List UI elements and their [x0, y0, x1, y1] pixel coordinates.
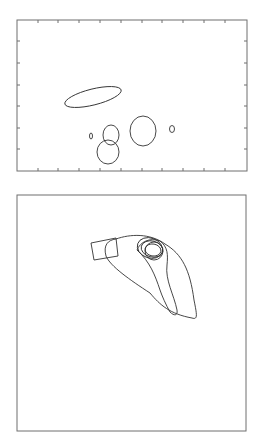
top-panel-ticks — [17, 20, 247, 171]
contour-small-rectangle — [91, 238, 118, 260]
contour-tiny-loop-left — [90, 133, 93, 139]
top-panel-contours — [63, 82, 175, 164]
contour-elongated-ellipse — [63, 82, 123, 112]
top-panel-frame — [17, 20, 247, 171]
contour-middle-blob — [130, 116, 156, 146]
contour-upper-circle — [103, 125, 119, 145]
figure-canvas — [0, 0, 260, 447]
contour-lower-blob — [97, 140, 119, 164]
bottom-panel-frame — [17, 195, 246, 431]
contour-figure — [0, 0, 260, 447]
contour-core-loop-3 — [134, 234, 165, 262]
bottom-contour-panel — [17, 195, 246, 431]
contour-outer-elongated-loop — [105, 235, 196, 318]
top-contour-panel — [17, 20, 247, 171]
bottom-panel-contours — [91, 234, 196, 318]
contour-middle-loop — [137, 240, 177, 315]
contour-tiny-loop-right — [170, 126, 175, 133]
